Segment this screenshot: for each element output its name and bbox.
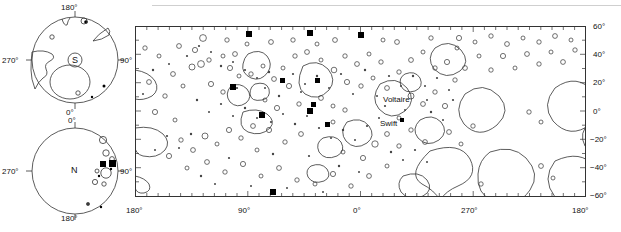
south-polar-projection — [0, 0, 140, 120]
north-pole-label-top: 0° — [68, 116, 76, 125]
north-pole-letter: N — [71, 165, 78, 175]
xtick-label-4: 180° — [572, 206, 589, 215]
ytick-label-1: 40° — [593, 50, 605, 59]
ytick-label-6: −60° — [590, 191, 607, 200]
ytick-label-5: −40° — [590, 163, 607, 172]
ytick-label-2: 20° — [593, 78, 605, 87]
south-pole-label-right: 90° — [120, 56, 132, 65]
ytick-label-0: 60° — [593, 22, 605, 31]
north-pole-label-right: 90° — [120, 167, 132, 176]
main-cylindrical-map — [135, 26, 586, 197]
crater-label-swift: Swift — [380, 119, 397, 128]
deimos-feature-map-figure: S 180° 90° 0° 270° — [0, 0, 621, 232]
south-pole-label-left: 270° — [2, 56, 19, 65]
south-pole-letter: S — [72, 55, 78, 65]
south-pole-label-top: 180° — [61, 3, 78, 12]
ytick-label-4: −20° — [590, 135, 607, 144]
xtick-label-3: 270° — [461, 206, 478, 215]
page-rule — [152, 5, 621, 6]
xtick-label-2: 0° — [353, 206, 361, 215]
xtick-label-0: 180° — [126, 206, 143, 215]
crater-label-voltaire: Voltaire — [383, 95, 410, 104]
north-pole-label-bottom: 180° — [61, 214, 78, 223]
xtick-label-1: 90° — [238, 206, 250, 215]
north-pole-label-left: 270° — [2, 167, 19, 176]
ytick-label-3: 0° — [593, 107, 601, 116]
